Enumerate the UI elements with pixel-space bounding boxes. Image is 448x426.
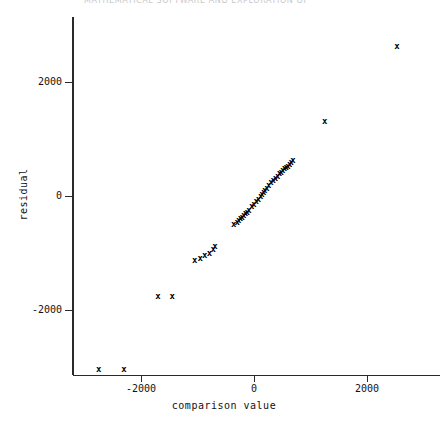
data-point-marker: x [270,177,277,184]
data-point-marker: x [321,118,328,125]
data-point-marker: x [264,185,271,192]
data-point-marker: x [197,255,204,262]
data-point-marker: x [274,173,281,180]
x-axis-line [73,375,440,376]
data-point-marker: x [234,219,241,226]
x-axis-tick [367,375,368,382]
data-point-marker: x [257,193,264,200]
data-point-marker: x [95,366,102,373]
x-axis-tick [141,375,142,382]
data-point-marker: x [242,210,249,217]
y-axis-tick [65,310,72,311]
data-point-marker: x [251,201,258,208]
data-point-marker: x [201,252,208,259]
x-axis-tick [254,375,255,382]
data-point-marker: x [240,212,247,219]
data-point-marker: x [239,214,246,221]
data-point-marker: x [286,161,293,168]
plot-area: 20000-2000-200002000 xxxxxxxxxxxxxxxxxxx… [0,0,448,426]
data-point-marker: x [283,164,290,171]
data-point-marker: x [279,167,286,174]
data-point-marker: x [206,250,213,257]
data-point-marker: x [255,196,262,203]
data-point-marker: x [278,169,285,176]
data-point-marker: x [230,221,237,228]
data-point-marker: x [169,293,176,300]
data-point-marker: x [281,165,288,172]
data-point-marker: x [272,175,279,182]
data-point-marker: x [290,157,297,164]
data-point-marker: x [265,182,272,189]
data-point-marker: x [284,163,291,170]
data-point-marker: x [393,43,400,50]
y-axis-tick [65,82,72,83]
data-point-marker: x [237,215,244,222]
x-axis-title: comparison value [0,400,448,411]
data-point-marker: x [253,198,260,205]
data-point-marker: x [248,203,255,210]
data-point-marker: x [267,179,274,186]
y-axis-line [72,17,74,375]
data-point-marker: x [276,170,283,177]
data-point-marker: x [212,243,219,250]
data-point-marker: x [258,191,265,198]
y-axis-tick-label: 2000 [16,76,62,87]
x-axis-tick-label: -2000 [111,383,171,394]
y-axis-tick-label: -2000 [16,304,62,315]
x-axis-tick-label: 0 [224,383,284,394]
y-axis-title: residual [18,150,29,240]
scatter-plot-figure: MATHEMATICAL SOFTWARE AND EXPLORATION OF… [0,0,448,426]
data-point-marker: x [260,189,267,196]
data-point-marker: x [261,187,268,194]
data-point-marker: x [244,209,251,216]
data-point-marker: x [154,293,161,300]
x-axis-tick-label: 2000 [337,383,397,394]
y-axis-tick [65,196,72,197]
data-point-marker: x [121,366,128,373]
data-point-marker: x [245,207,252,214]
data-point-marker: x [288,159,295,166]
data-point-marker: x [235,217,242,224]
data-point-marker: x [210,246,217,253]
data-point-marker: x [191,257,198,264]
